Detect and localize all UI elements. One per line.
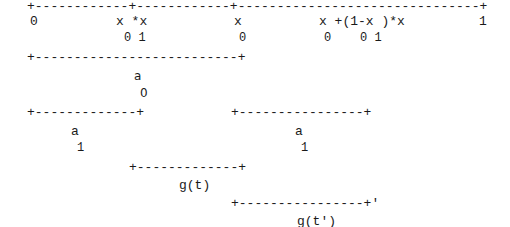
product-subscripts: 0 1: [124, 32, 146, 45]
gtprime-interval-line: +----------------+': [231, 197, 379, 210]
a1-left-interval-line: +-------------+: [27, 106, 144, 119]
interpolation-expression: x +(1-x )*x: [319, 15, 405, 28]
a1-right-label: a: [295, 125, 303, 138]
a1-right-interval-line: +----------------+: [231, 106, 371, 119]
gt-label: g(t): [179, 179, 210, 192]
x0-expression: x: [234, 15, 242, 28]
axis-label-one: 1: [479, 15, 487, 28]
axis-label-zero: 0: [30, 15, 38, 28]
interpolation-subscripts: 0 0 1: [324, 32, 382, 45]
a1-left-subscript: 1: [77, 142, 84, 155]
a0-interval-line: +--------------------------+: [27, 51, 245, 64]
x0-subscript: 0: [239, 32, 246, 45]
a0-label: a: [134, 70, 141, 83]
a1-left-label: a: [71, 125, 79, 138]
gtprime-label: g(t'): [297, 215, 336, 227]
product-expression: x *x: [116, 15, 147, 28]
a0-subscript: 0: [140, 87, 148, 100]
top-axis-line: +------------+------------+-------------…: [27, 0, 487, 13]
a1-right-subscript: 1: [301, 142, 308, 155]
gt-interval-line: +-------------+: [129, 161, 246, 174]
